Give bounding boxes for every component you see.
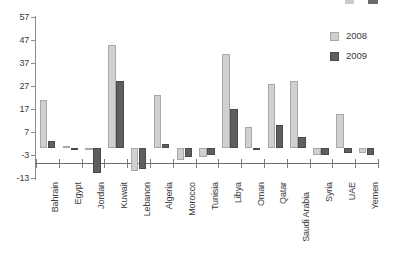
bar-oman-2009 [253,148,261,150]
x-axis-tick [264,159,265,168]
bar-bahrain-2008 [40,100,48,148]
legend-swatch-2009-icon [330,52,339,61]
bar-jordan-2009 [93,148,101,173]
x-axis-label-bahrain: Bahrain [51,182,60,212]
x-axis-label-oman: Oman [257,182,266,206]
x-axis-tick [82,159,83,168]
x-axis-tick [218,159,219,168]
x-axis-label-kuwait: Kuwait [120,182,129,208]
chart-legend: 2008 2009 [330,28,367,68]
y-axis-tick-label: 57 [3,13,29,22]
bar-kuwait-2008 [108,45,116,149]
bar-qatar-2009 [276,125,284,148]
bar-saudi-arabia-2009 [298,137,306,149]
y-axis-tick-label: 37 [3,59,29,68]
x-axis-label-saudi-arabia: Saudi Arabia [302,192,311,242]
y-axis-tick-label: -3 [3,151,29,160]
y-axis-tick [31,40,36,41]
bar-uae-2008 [336,114,344,149]
x-axis-label-lebanon: Lebanon [143,182,152,216]
bar-kuwait-2009 [116,81,124,148]
y-axis-tick [31,178,36,179]
x-axis-tick [173,159,174,168]
y-axis-tick-label: 7 [3,128,29,137]
bar-libya-2009 [230,109,238,148]
x-axis-tick [287,159,288,168]
y-axis-tick [31,17,36,18]
x-axis-tick [150,159,151,168]
x-axis-label-jordan: Jordan [97,182,106,209]
x-axis-tick [59,159,60,168]
bar-bahrain-2009 [48,141,56,148]
legend-label-2008: 2008 [346,31,367,41]
x-axis-tick [127,159,128,168]
zero-baseline [35,163,378,164]
bar-algeria-2008 [154,95,162,148]
x-axis-label-qatar: Qatar [279,182,288,204]
legend-item-2009: 2009 [330,48,367,64]
x-axis-label-morocco: Morocco [188,182,197,216]
x-axis-tick [36,159,37,168]
bar-egypt-2009 [71,148,79,150]
x-axis-label-tunisia: Tunisia [211,182,220,210]
y-axis-tick-label: 17 [3,105,29,114]
bar-morocco-2008 [177,148,185,160]
y-axis-tick-label: -13 [3,174,29,183]
bar-tunisia-2009 [207,148,215,155]
bar-chart: 57473727177-3-13 BahrainEgyptJordanKuwai… [0,0,395,268]
x-axis-tick [310,159,311,168]
x-axis-tick [104,159,105,168]
y-axis-tick [31,155,36,156]
legend-item-2008: 2008 [330,28,367,44]
y-axis-tick-label: 27 [3,82,29,91]
bar-uae-2009 [344,148,352,153]
bar-yemen-2009 [367,148,375,155]
bar-yemen-2008 [359,148,367,153]
bar-syria-2008 [313,148,321,155]
x-axis-label-egypt: Egypt [74,182,83,205]
bar-algeria-2009 [162,144,170,149]
bar-tunisia-2008 [199,148,207,157]
x-axis-label-yemen: Yemen [371,182,380,209]
legend-label-2009: 2009 [346,51,367,61]
bar-jordan-2008 [85,148,93,150]
y-axis-tick [31,63,36,64]
bar-egypt-2008 [63,146,71,148]
bar-syria-2009 [321,148,329,155]
legend-swatch-2008-icon [330,32,339,41]
bar-morocco-2009 [185,148,193,157]
bar-lebanon-2009 [139,148,147,169]
x-axis-label-uae: UAE [348,182,357,200]
bar-qatar-2008 [268,84,276,148]
x-axis-tick [355,159,356,168]
top-edge-artifact-dark [368,0,378,4]
y-axis-tick [31,109,36,110]
top-edge-artifact-light [345,0,354,4]
y-axis-tick [31,86,36,87]
x-axis-label-algeria: Algeria [165,182,174,209]
x-axis-label-syria: Syria [325,182,334,202]
x-axis-tick [196,159,197,168]
x-axis-tick [378,159,379,168]
bar-saudi-arabia-2008 [290,81,298,148]
x-axis-label-libya: Libya [234,182,243,203]
bar-libya-2008 [222,54,230,148]
bar-lebanon-2008 [131,148,139,171]
y-axis-tick [31,132,36,133]
bar-oman-2008 [245,127,253,148]
x-axis-tick [332,159,333,168]
y-axis-tick-label: 47 [3,36,29,45]
x-axis-tick [241,159,242,168]
